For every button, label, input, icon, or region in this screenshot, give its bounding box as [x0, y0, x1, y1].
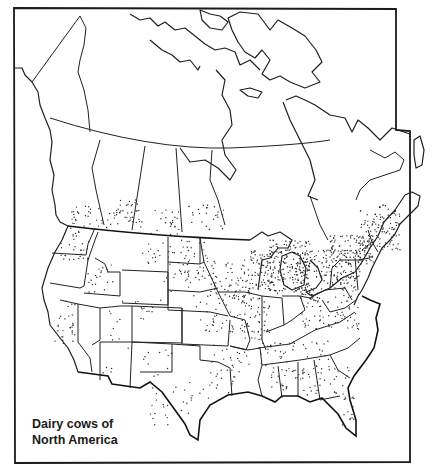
ontario-quebec-border — [310, 196, 328, 240]
hudson-bay-coast — [180, 70, 410, 180]
sask-manitoba-border — [176, 148, 182, 232]
yukon-nwt-border — [78, 16, 90, 132]
map-title-line1: Dairy cows of — [32, 416, 118, 432]
newfoundland — [414, 136, 424, 168]
manitoba-ontario-border — [210, 150, 225, 225]
arctic-islands — [130, 10, 322, 98]
bc-alberta-border — [92, 140, 104, 225]
map-title-line2: North America — [32, 432, 118, 448]
map-title: Dairy cows of North America — [32, 416, 118, 448]
james-bay-coast — [283, 102, 318, 200]
quebec-labrador-border — [356, 150, 404, 200]
parallel-60-border — [50, 118, 330, 148]
dairy-cows-map — [0, 0, 432, 469]
alaska-yukon-border — [32, 16, 80, 82]
us-pacific-coast — [42, 226, 78, 372]
alaska-panhandle-coast — [14, 68, 68, 226]
alberta-sask-border — [132, 146, 145, 230]
